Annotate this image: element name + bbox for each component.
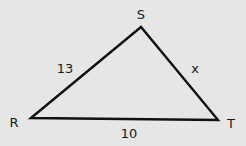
vertex-label-t: T — [226, 116, 235, 131]
vertex-label-s: S — [137, 7, 145, 22]
triangle-svg: R S T 13 x 10 — [0, 0, 246, 146]
side-label-st: x — [191, 61, 199, 76]
side-label-rs: 13 — [57, 61, 74, 76]
side-label-rt: 10 — [121, 126, 138, 141]
vertex-label-r: R — [9, 115, 18, 130]
triangle-diagram: R S T 13 x 10 — [0, 0, 246, 146]
